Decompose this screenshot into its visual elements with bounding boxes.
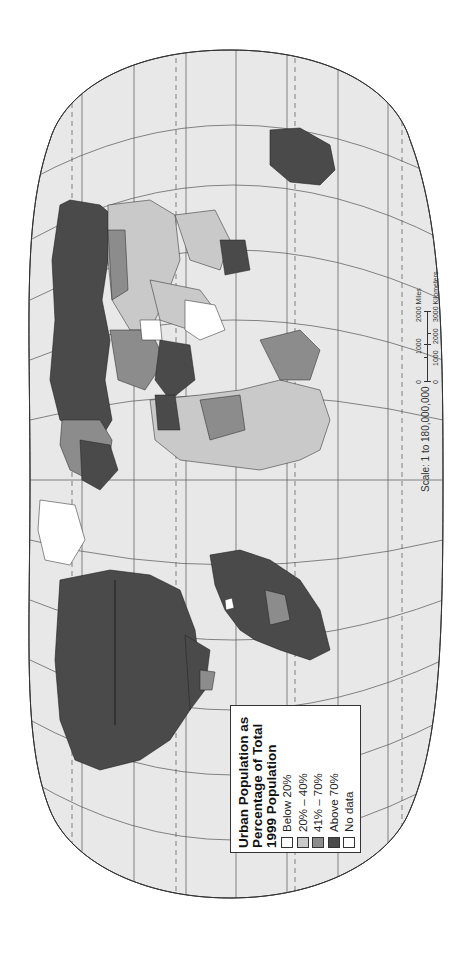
scale-miles-0: 0	[415, 380, 422, 384]
region-central-america	[200, 670, 215, 690]
region-afghanistan	[140, 320, 162, 340]
legend-label: Below 20%	[281, 774, 293, 832]
legend-item-below-20: Below 20%	[280, 712, 295, 848]
legend-item-20-40: 20% – 40%	[296, 712, 311, 848]
legend-label: No data	[343, 792, 355, 832]
legend-title-line-2: Percentage of Total	[251, 712, 265, 848]
swatch-above-70	[328, 837, 340, 848]
swatch-no-data	[343, 837, 355, 848]
legend-label: 20% – 40%	[297, 773, 309, 832]
legend: Urban Population as Percentage of Total …	[230, 705, 361, 853]
scale-km-2000: 2000	[432, 328, 439, 344]
legend-title-line-3: 1999 Population	[265, 712, 279, 848]
scale-km-3000: 3000 Kilometers	[432, 271, 439, 322]
swatch-41-70	[312, 837, 324, 848]
scale-bar: 0 1000 2000 Miles 0 1000 2000 3000 Kilom…	[415, 272, 441, 388]
legend-item-41-70: 41% – 70%	[311, 712, 326, 848]
legend-title-line-1: Urban Population as	[237, 712, 251, 848]
region-russia	[50, 200, 112, 440]
scale: Scale: 1 to 180,000,000 0 1000 2000 Mile…	[415, 270, 441, 492]
legend-label: Above 70%	[328, 773, 340, 832]
scale-miles-1000: 1000	[415, 338, 422, 354]
legend-label: 41% – 70%	[312, 773, 324, 832]
scale-miles-2000: 2000 Miles	[415, 288, 422, 322]
swatch-20-40	[297, 837, 309, 848]
scale-km-1000: 1000	[432, 350, 439, 366]
legend-item-no-data: No data	[342, 712, 357, 848]
legend-title: Urban Population as Percentage of Total …	[237, 712, 279, 848]
scale-text: Scale: 1 to 180,000,000	[420, 386, 431, 492]
swatch-below-20	[281, 837, 293, 848]
scale-km-0: 0	[432, 380, 439, 384]
region-libya	[220, 240, 250, 275]
legend-item-above-70: Above 70%	[327, 712, 342, 848]
